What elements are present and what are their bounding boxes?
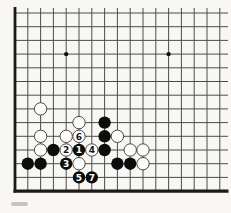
star-point <box>166 52 170 56</box>
black-stone <box>98 116 110 128</box>
black-stone <box>22 158 34 170</box>
stone-move-number: 5 <box>76 173 82 183</box>
black-stone <box>98 130 110 142</box>
white-stone <box>137 144 149 156</box>
stone-move-number: 1 <box>76 145 82 155</box>
go-diagram-figure: 6214357 <box>0 0 231 213</box>
black-stone <box>47 144 59 156</box>
stone-move-number: 3 <box>63 159 69 169</box>
white-stone <box>34 144 46 156</box>
stone-move-number: 7 <box>89 173 95 183</box>
white-stone <box>137 158 149 170</box>
cropped-caption-fragment <box>11 202 28 206</box>
go-board: 6214357 <box>0 0 231 213</box>
black-stone <box>34 158 46 170</box>
white-stone <box>34 103 46 115</box>
white-stone <box>73 158 85 170</box>
white-stone <box>34 130 46 142</box>
stone-move-number: 2 <box>63 145 69 155</box>
black-stone <box>124 158 136 170</box>
white-stone <box>60 130 72 142</box>
black-stone <box>98 144 110 156</box>
stone-move-number: 4 <box>89 145 95 155</box>
star-point <box>64 52 68 56</box>
black-stone <box>111 158 123 170</box>
stone-move-number: 6 <box>76 132 82 142</box>
white-stone <box>124 144 136 156</box>
white-stone <box>111 130 123 142</box>
white-stone <box>73 116 85 128</box>
